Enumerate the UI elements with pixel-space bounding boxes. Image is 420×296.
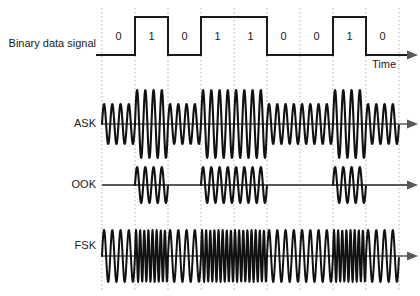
binary-signal-label: Binary data signal <box>0 38 96 49</box>
bit-digit-0: 0 <box>102 30 135 42</box>
bit-digit-6: 0 <box>300 30 333 42</box>
ask-axis-arrow <box>407 120 418 129</box>
bit-digit-7: 1 <box>333 30 366 42</box>
fsk-axis-arrow <box>407 252 418 261</box>
bit-digit-5: 0 <box>267 30 300 42</box>
binary-axis-arrow <box>407 51 418 60</box>
bit-digit-3: 1 <box>201 30 234 42</box>
ook-label: OOK <box>0 179 96 190</box>
bit-digit-2: 0 <box>168 30 201 42</box>
ask-label: ASK <box>0 118 96 129</box>
fsk-label: FSK <box>0 240 96 251</box>
ook-axis-arrow <box>407 181 418 190</box>
time-axis-label: Time <box>372 58 396 70</box>
bit-digit-8: 0 <box>366 30 399 42</box>
fsk-waveform <box>102 230 399 282</box>
ask-waveform <box>102 90 399 158</box>
bit-digit-4: 1 <box>234 30 267 42</box>
bit-digit-1: 1 <box>135 30 168 42</box>
modulation-diagram: Binary data signal ASK OOK FSK Time 0101… <box>0 0 420 296</box>
